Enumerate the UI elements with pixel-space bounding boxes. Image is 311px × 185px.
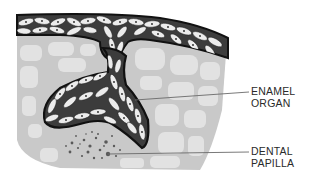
- label-dental-papilla-line2: PAPILLA: [251, 158, 294, 170]
- label-enamel-organ-line1: ENAMEL: [251, 86, 295, 98]
- label-dental-papilla-line1: DENTAL: [251, 146, 294, 158]
- tooth-bud-diagram: ENAMEL ORGAN DENTAL PAPILLA: [0, 0, 311, 185]
- label-dental-papilla: DENTAL PAPILLA: [251, 146, 294, 169]
- label-enamel-organ: ENAMEL ORGAN: [251, 86, 295, 109]
- label-enamel-organ-line2: ORGAN: [251, 98, 295, 110]
